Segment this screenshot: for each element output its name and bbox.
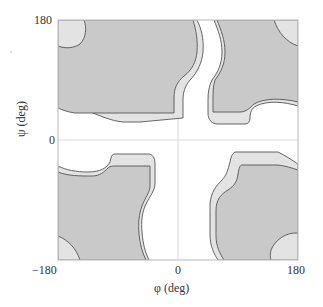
- x-axis-label: φ (deg): [154, 282, 189, 294]
- x-tick-neg180: −180: [32, 264, 57, 276]
- y-axis-label: ψ (deg): [15, 94, 27, 144]
- x-tick-0: 0: [175, 264, 181, 276]
- y-tick-0: 0: [49, 134, 55, 146]
- stray-dot: [10, 51, 12, 53]
- y-tick-180: 180: [34, 14, 52, 26]
- ramachandran-plot: [0, 0, 323, 307]
- x-tick-180: 180: [287, 264, 305, 276]
